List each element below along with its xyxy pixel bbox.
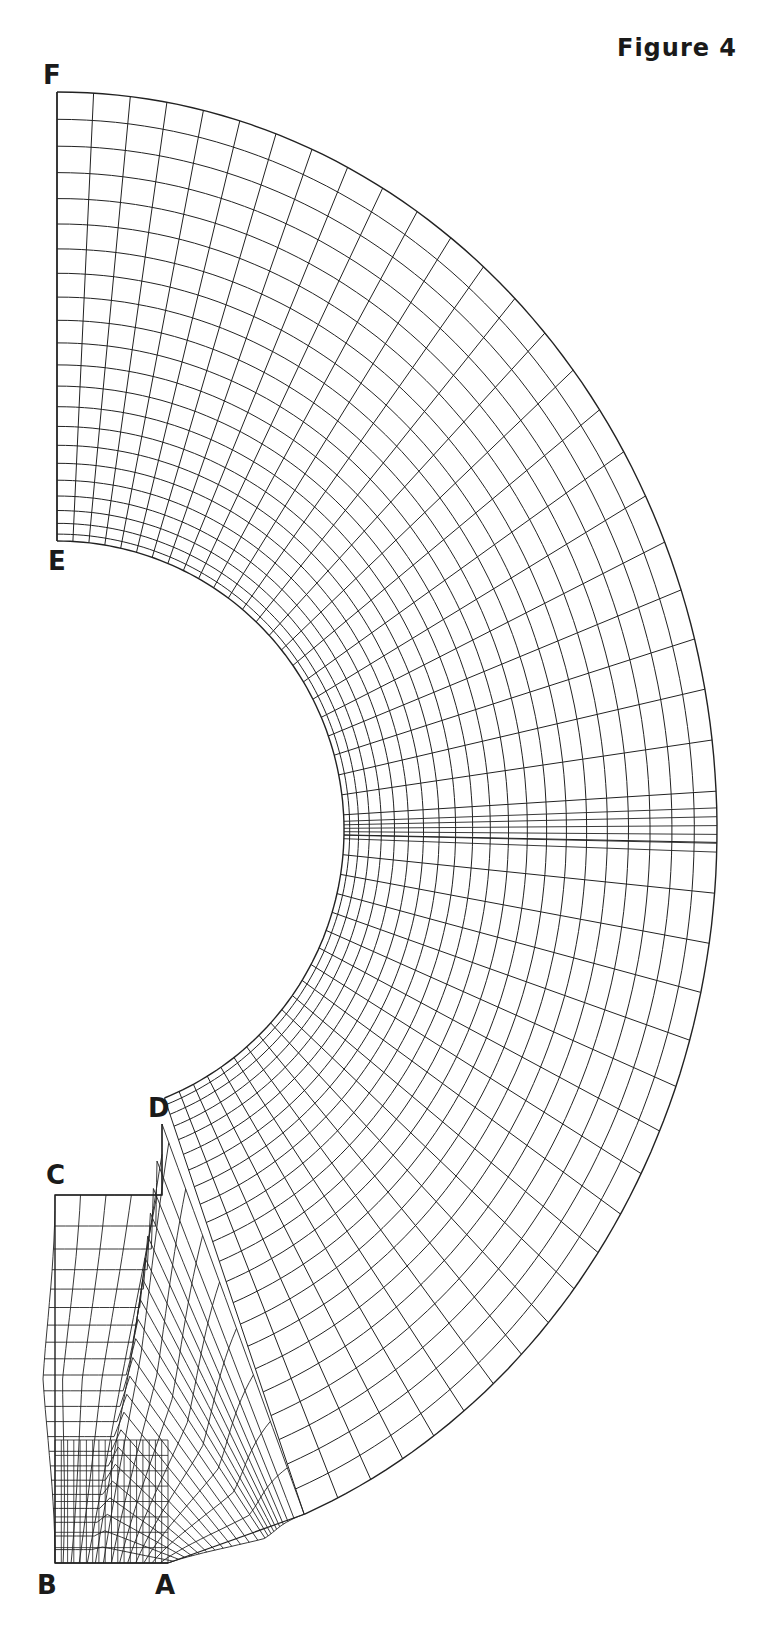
mesh-radial (89, 97, 130, 543)
mesh-radial (247, 1047, 494, 1384)
mesh-radial (319, 948, 659, 1131)
mesh-arc (57, 343, 509, 1282)
mesh-arc (57, 463, 409, 1170)
mesh-arc (57, 173, 650, 1440)
mesh-arcs (57, 92, 717, 1514)
label-a: A (155, 1572, 175, 1598)
mesh-arc (57, 320, 527, 1302)
mesh-arc (57, 496, 381, 1140)
mesh-radial (332, 912, 690, 1040)
mesh-foot-row (45, 1376, 249, 1542)
label-f: F (43, 62, 61, 88)
mesh-arc (57, 534, 350, 1104)
mesh-radial (271, 1023, 549, 1323)
mesh-radial (326, 930, 676, 1086)
mesh-radial-dense (344, 839, 717, 852)
mesh-arc (57, 297, 547, 1324)
mesh-radial (228, 238, 450, 598)
finite-element-mesh (0, 0, 767, 1644)
mesh-radials (57, 92, 717, 1514)
mesh-radial (303, 452, 623, 682)
mesh-radial (193, 1084, 370, 1479)
label-d: D (148, 1095, 170, 1121)
mesh-foot-row (51, 1236, 280, 1527)
mesh-radial (73, 93, 94, 541)
mesh-arc (57, 523, 359, 1114)
label-c: C (46, 1162, 65, 1188)
mesh-radial (214, 212, 418, 588)
mesh-radial-dense (344, 832, 717, 835)
mesh-arc (57, 92, 717, 1514)
mesh-arc (57, 511, 369, 1127)
mesh-radial (256, 299, 515, 622)
mesh-radial (282, 370, 574, 650)
mesh-radial (302, 980, 620, 1214)
mesh-radial-dense (344, 808, 717, 821)
mesh-foot-column (63, 1195, 81, 1563)
mesh-radial (259, 1035, 522, 1354)
mesh-radial (168, 149, 312, 563)
mesh-arc (57, 119, 694, 1489)
mesh-radial (344, 791, 716, 815)
mesh-arc (57, 445, 424, 1186)
mesh-radial (183, 167, 347, 570)
mesh-arc (57, 541, 344, 1098)
label-b: B (37, 1572, 57, 1598)
mesh-arc (57, 365, 490, 1261)
mesh-arc (57, 426, 439, 1204)
mesh-radial (321, 542, 664, 717)
mesh-radial (339, 689, 705, 775)
mesh-foot-column (43, 1195, 55, 1563)
mesh-foot-row (53, 1189, 288, 1522)
mesh-radial (121, 110, 204, 548)
mesh-foot-row (50, 1447, 215, 1550)
label-e: E (48, 548, 66, 574)
mesh-radial-dense (344, 835, 717, 843)
mesh-foot-column (144, 1375, 254, 1563)
mesh-radial (328, 590, 681, 736)
figure-title: Figure 4 (617, 34, 737, 62)
mesh-radial-dense (344, 826, 717, 829)
mesh-radial (334, 639, 694, 755)
mesh-radial (343, 855, 715, 894)
mesh-radial (179, 1092, 338, 1498)
mesh-arc (57, 249, 587, 1369)
mesh-radial (292, 996, 598, 1253)
mesh-radial (165, 1098, 305, 1514)
mesh-radial (342, 740, 712, 795)
mesh-radial (311, 965, 641, 1174)
mesh-foot-row (47, 1279, 273, 1531)
mesh-radial (282, 1010, 574, 1289)
mesh-arc (57, 386, 473, 1242)
mesh-radial-dense (344, 817, 717, 825)
mesh-radial (221, 1067, 434, 1436)
mesh-radial (313, 496, 646, 699)
